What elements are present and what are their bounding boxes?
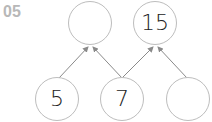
arrow-7-to-top-right: [122, 47, 153, 78]
bottom-right-node-value[interactable]: [166, 77, 210, 121]
top-left-node-value[interactable]: [68, 1, 112, 45]
arrow-5-to-top-left: [59, 47, 88, 78]
bottom-left-node-value[interactable]: 5: [35, 77, 79, 121]
bottom-middle-node-value[interactable]: 7: [100, 77, 144, 121]
arrow-7-to-top-left: [93, 47, 122, 78]
top-right-node-value[interactable]: 15: [133, 1, 177, 45]
arrow-blank-to-top-right: [158, 47, 187, 78]
